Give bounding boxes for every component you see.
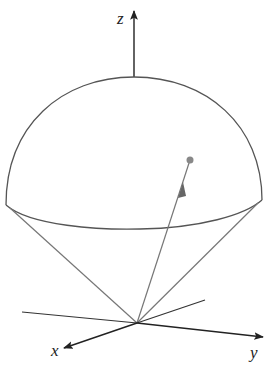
cone-left-edge — [10, 208, 137, 323]
y-axis-label: y — [248, 343, 258, 362]
hemisphere-outline — [6, 77, 262, 205]
z-axis-label: z — [116, 9, 124, 28]
x-axis-negative — [137, 300, 205, 323]
x-axis-label: x — [50, 341, 59, 360]
point — [187, 157, 194, 164]
cone-right-edge — [137, 203, 258, 323]
y-axis — [137, 323, 263, 337]
cone-hemisphere-diagram: z x y — [0, 0, 266, 374]
equator-ellipse — [6, 200, 262, 229]
y-axis-negative — [22, 312, 137, 323]
x-axis — [64, 323, 137, 348]
position-vector — [137, 160, 190, 323]
